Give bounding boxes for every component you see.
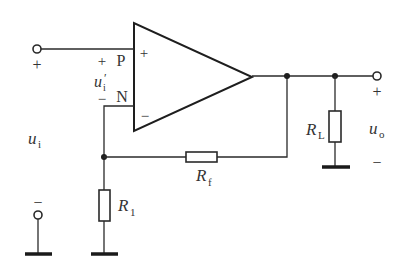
output-voltage-label: u o xyxy=(369,119,385,140)
svg-text:u: u xyxy=(369,119,378,138)
svg-text:R: R xyxy=(195,166,207,185)
svg-text:R: R xyxy=(305,120,317,139)
svg-text:i: i xyxy=(38,138,41,150)
diff-voltage-symbol: u xyxy=(94,73,102,90)
input-minus-sign: − xyxy=(33,194,42,211)
diff-input-voltage-label: u i ′ xyxy=(94,71,107,93)
input-plus-sign: + xyxy=(32,56,41,73)
circuit-diagram: + − + + P u i ′ − N R 1 R f + R L xyxy=(0,0,408,277)
resistor-r1 xyxy=(99,190,110,221)
input-terminal-top[interactable] xyxy=(33,45,41,53)
svg-text:R: R xyxy=(117,196,129,215)
svg-text:L: L xyxy=(318,129,325,141)
diff-minus-sign: − xyxy=(98,91,106,107)
input-terminal-bottom[interactable] xyxy=(34,211,42,219)
diff-voltage-prime: ′ xyxy=(104,71,107,85)
rf-label: R f xyxy=(195,166,212,188)
junction-feedback xyxy=(284,73,290,79)
svg-text:o: o xyxy=(379,128,385,140)
output-minus-sign: − xyxy=(372,154,381,171)
node-p-label: P xyxy=(117,52,126,69)
opamp-minus-sign: − xyxy=(141,108,149,124)
resistor-rl xyxy=(329,111,341,142)
node-n-label: N xyxy=(116,88,128,105)
output-terminal[interactable] xyxy=(373,72,381,80)
r1-label: R 1 xyxy=(117,196,136,218)
diff-plus-sign: + xyxy=(98,53,106,69)
opamp-triangle xyxy=(134,23,252,131)
resistor-rf xyxy=(186,152,217,162)
opamp-plus-sign: + xyxy=(140,45,148,61)
input-voltage-label: u i xyxy=(28,129,41,150)
svg-text:1: 1 xyxy=(130,206,136,218)
inverting-input-wire xyxy=(104,106,134,190)
rl-label: R L xyxy=(305,120,325,141)
svg-text:f: f xyxy=(208,176,212,188)
svg-text:u: u xyxy=(28,129,37,148)
output-plus-sign: + xyxy=(372,83,381,100)
